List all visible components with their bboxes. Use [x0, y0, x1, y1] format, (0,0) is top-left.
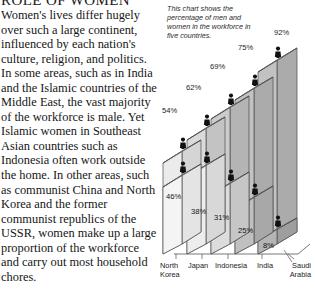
xlabel-japan: Japan	[188, 262, 214, 271]
xlabel-north-korea: North Korea	[160, 262, 186, 279]
encyclopedia-page: ROLE OF WOMEN Women's lives differ hugel…	[0, 0, 315, 290]
pct-men-saudi-arabia: 92%	[274, 28, 289, 37]
pct-men-indonesia: 69%	[210, 62, 225, 71]
xlabel-indonesia: Indonesia	[215, 262, 255, 271]
pct-women-indonesia: 31%	[214, 213, 229, 222]
pct-women-north-korea: 46%	[166, 192, 181, 201]
xlabel-saudi-arabia: Saudi Arabia	[281, 262, 311, 279]
pct-men-north-korea: 54%	[162, 106, 177, 115]
workforce-bar-chart	[158, 0, 315, 290]
pct-men-japan: 62%	[186, 83, 201, 92]
pct-men-india: 75%	[238, 43, 253, 52]
article-body: Women's lives differ hugely over such a …	[1, 8, 157, 284]
pct-women-india: 25%	[238, 226, 253, 235]
article-column: ROLE OF WOMEN Women's lives differ hugel…	[0, 0, 158, 290]
pct-women-japan: 38%	[191, 207, 206, 216]
chart-panel: This chart shows the percentage of men a…	[158, 0, 315, 290]
pct-women-saudi-arabia: 8%	[263, 241, 274, 250]
xlabel-india: India	[257, 262, 279, 271]
